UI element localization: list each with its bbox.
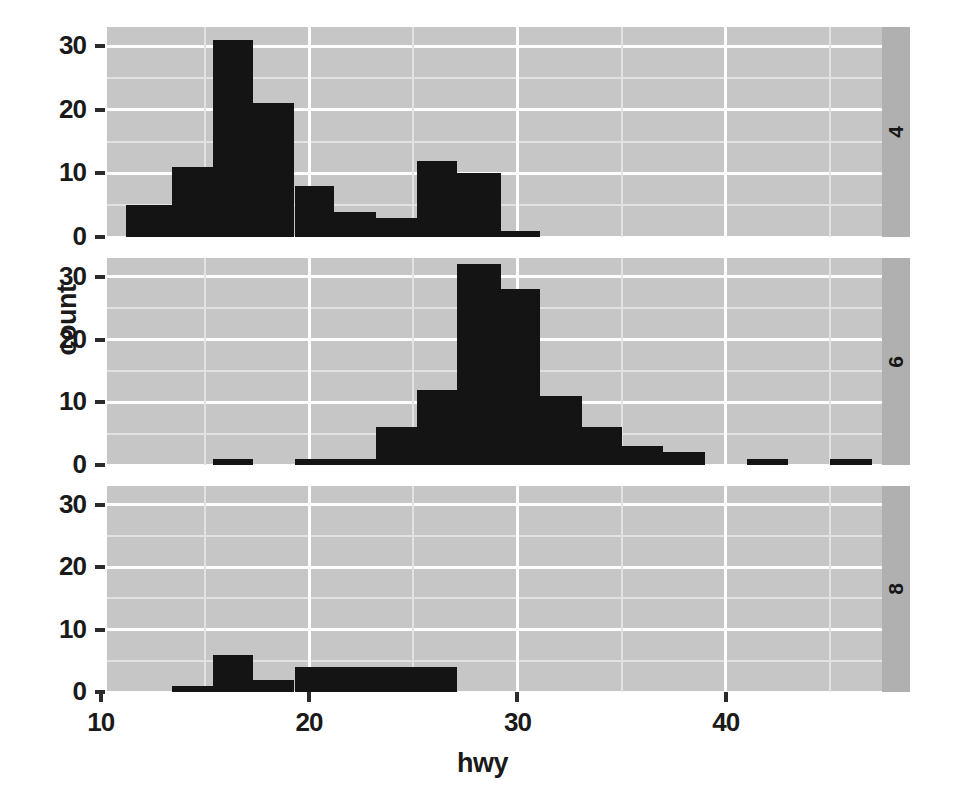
gridline-vertical <box>724 258 727 465</box>
gridline-vertical <box>412 27 414 237</box>
gridline-horizontal <box>107 628 882 631</box>
histogram-bar <box>172 167 214 237</box>
facet-panel-8 <box>107 486 882 692</box>
y-tick-mark <box>95 338 105 342</box>
y-tick-label: 10 <box>30 386 86 417</box>
gridline-vertical <box>204 258 206 465</box>
x-tick-mark <box>99 692 103 702</box>
y-tick-mark <box>95 628 105 632</box>
histogram-bar <box>540 396 582 465</box>
histogram-bar <box>334 667 376 692</box>
histogram-bar <box>417 161 457 237</box>
y-tick-label: 0 <box>30 221 86 252</box>
histogram-bar <box>376 427 418 465</box>
y-tick-mark <box>95 44 105 48</box>
y-tick-mark <box>95 171 105 175</box>
gridline-vertical <box>516 27 519 237</box>
histogram-bar <box>295 459 335 465</box>
y-tick-mark <box>95 108 105 112</box>
gridline-vertical <box>829 258 831 465</box>
histogram-bar <box>334 459 376 465</box>
histogram-bar <box>830 459 872 465</box>
gridline-vertical <box>621 27 623 237</box>
histogram-bar <box>213 655 253 692</box>
y-tick-label: 0 <box>30 676 86 707</box>
y-tick-label: 20 <box>30 94 86 125</box>
y-tick-label: 30 <box>30 261 86 292</box>
facet-strip-8: 8 <box>882 486 910 692</box>
x-axis-title: hwy <box>0 748 965 779</box>
histogram-bar <box>501 231 541 237</box>
histogram-bar <box>457 264 501 465</box>
histogram-bar <box>622 446 664 465</box>
y-tick-label: 20 <box>30 551 86 582</box>
plot-root: count hwy 468 010203001020300102030 1020… <box>0 0 965 801</box>
gridline-vertical <box>308 486 311 692</box>
histogram-bar <box>295 186 335 237</box>
facet-panel-6 <box>107 258 882 465</box>
x-tick-label: 20 <box>279 707 339 738</box>
x-tick-label: 40 <box>696 707 756 738</box>
histogram-bar <box>376 218 418 237</box>
y-tick-label: 10 <box>30 614 86 645</box>
x-tick-mark <box>724 692 728 702</box>
histogram-bar <box>295 667 335 692</box>
facet-strip-6: 6 <box>882 258 910 465</box>
histogram-bar <box>213 40 253 237</box>
y-tick-label: 20 <box>30 324 86 355</box>
y-tick-mark <box>95 503 105 507</box>
gridline-vertical <box>724 486 727 692</box>
facet-strip-label: 8 <box>884 583 908 595</box>
x-tick-label: 30 <box>487 707 547 738</box>
facet-strip-label: 4 <box>884 126 908 138</box>
y-tick-label: 30 <box>30 30 86 61</box>
histogram-bar <box>126 205 172 237</box>
y-tick-mark <box>95 463 105 467</box>
y-tick-label: 10 <box>30 157 86 188</box>
y-tick-mark <box>95 400 105 404</box>
facet-strip-label: 6 <box>884 356 908 368</box>
facet-strip-4: 4 <box>882 27 910 237</box>
gridline-vertical <box>412 486 414 692</box>
gridline-vertical <box>621 486 623 692</box>
histogram-bar <box>172 686 214 692</box>
gridline-vertical <box>516 486 519 692</box>
histogram-bar <box>582 427 622 465</box>
histogram-bar <box>334 212 376 237</box>
gridline-horizontal <box>107 566 882 569</box>
y-tick-mark <box>95 235 105 239</box>
histogram-bar <box>253 680 295 692</box>
y-tick-mark <box>95 275 105 279</box>
gridline-horizontal <box>107 597 882 599</box>
histogram-bar <box>213 459 253 465</box>
x-tick-mark <box>307 692 311 702</box>
x-tick-mark <box>515 692 519 702</box>
x-tick-label: 10 <box>71 707 131 738</box>
histogram-bar <box>417 667 457 692</box>
facet-panel-4 <box>107 27 882 237</box>
y-tick-label: 0 <box>30 449 86 480</box>
histogram-bar <box>253 103 295 237</box>
gridline-vertical <box>829 486 831 692</box>
histogram-bar <box>663 452 705 465</box>
gridline-vertical <box>829 27 831 237</box>
gridline-vertical <box>308 258 311 465</box>
histogram-bar <box>747 459 789 465</box>
y-tick-label: 30 <box>30 489 86 520</box>
histogram-bar <box>501 289 541 465</box>
y-tick-mark <box>95 565 105 569</box>
histogram-bar <box>417 390 457 465</box>
gridline-horizontal <box>107 535 882 537</box>
gridline-vertical <box>204 486 206 692</box>
gridline-vertical <box>724 27 727 237</box>
gridline-horizontal <box>107 503 882 506</box>
histogram-bar <box>376 667 418 692</box>
histogram-bar <box>457 173 501 237</box>
